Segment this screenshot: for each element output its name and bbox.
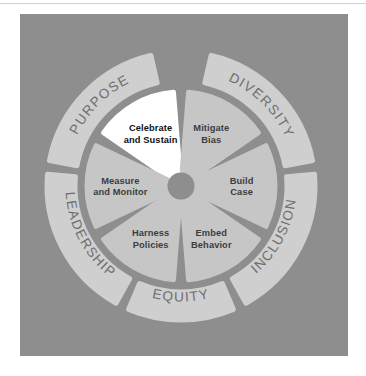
segment-label-line: Bias [201,135,221,145]
diagram-root: PURPOSEDIVERSITYINCLUSIONEQUITYLEADERSHI… [0,0,366,376]
segment-label-build-case: BuildCase [230,176,254,198]
segment-label-line: Mitigate [193,123,229,133]
dei-wheel-diagram: PURPOSEDIVERSITYINCLUSIONEQUITYLEADERSHI… [20,14,348,356]
segment-label-line: Case [230,187,253,197]
segment-label-line: Celebrate [129,123,172,133]
segment-label-line: Measure [101,176,139,186]
top-divider [0,3,366,4]
segment-label-embed-behavior: EmbedBehavior [191,228,232,250]
segment-label-line: Policies [133,240,169,250]
wheel-svg: PURPOSEDIVERSITYINCLUSIONEQUITYLEADERSHI… [20,14,348,356]
wheel-hub [168,173,194,199]
segment-label-line: Build [230,176,254,186]
segment-label-line: and Sustain [124,135,178,145]
segment-label-line: and Monitor [93,187,148,197]
segment-label-line: Embed [196,228,228,238]
segment-label-celebrate-and-sustain: Celebrateand Sustain [124,123,178,145]
ring-label-equity: EQUITY [151,286,211,304]
segment-label-line: Harness [132,228,169,238]
segment-label-harness-policies: HarnessPolicies [132,228,169,250]
hub-circle [168,173,194,199]
segment-label-line: Behavior [191,240,232,250]
